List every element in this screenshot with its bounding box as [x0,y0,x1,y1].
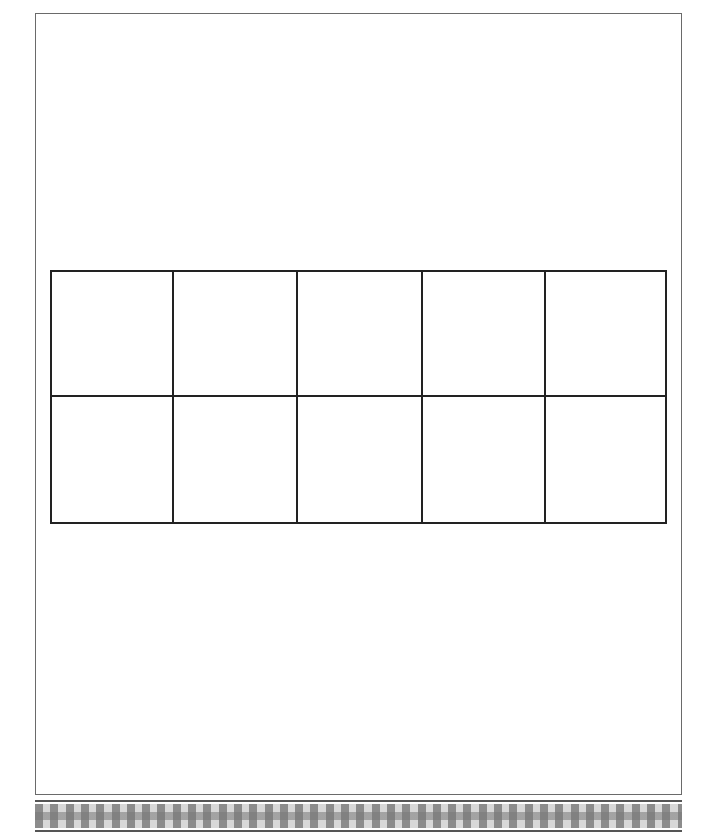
footer-top-rule [35,800,682,802]
footer-bottom-rule [35,830,682,832]
ten-frame-cell [546,272,665,397]
ten-frame-cell [174,272,298,397]
ten-frame-cell [174,397,298,522]
ten-frame-cell [546,397,665,522]
ten-frame-cell [298,272,423,397]
ten-frame-cell [423,397,546,522]
ten-frame-grid [50,270,667,524]
ten-frame-cell [52,397,174,522]
checkered-border-strip [35,804,682,828]
ten-frame-cell [52,272,174,397]
ten-frame-cell [423,272,546,397]
ten-frame-cell [298,397,423,522]
